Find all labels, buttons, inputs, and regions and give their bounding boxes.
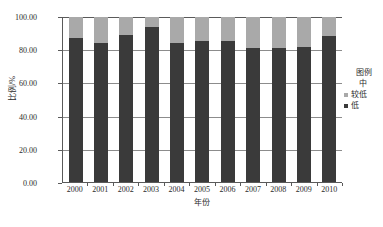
legend-title: 图例 [344, 66, 383, 77]
x-axis-tick-label: 2009 [291, 185, 316, 194]
y-axis-tick-label: 40.00 [0, 112, 37, 121]
bar-segment-lower-middle [272, 17, 286, 48]
bar-column[interactable] [221, 17, 235, 182]
x-axis-tick-label: 2002 [113, 185, 138, 194]
x-axis-tick-labels: 2000200120022003200420052006200720082009… [62, 185, 342, 194]
bar-segment-lower-middle [246, 17, 260, 48]
bar-segment-low [322, 36, 336, 182]
bar-segment-low [221, 41, 235, 182]
x-axis-tick-label: 2008 [266, 185, 291, 194]
bar-column[interactable] [246, 17, 260, 182]
y-axis-tick-label: 60.00 [0, 79, 37, 88]
x-axis-tick-label: 2004 [164, 185, 189, 194]
bar-segment-low [297, 47, 311, 182]
bar-column[interactable] [272, 17, 286, 182]
bar-segment-lower-middle [322, 17, 336, 36]
bar-segment-low [195, 41, 209, 182]
bar-segment-lower-middle [195, 17, 209, 41]
bar-segment-low [69, 38, 83, 182]
bar-column[interactable] [322, 17, 336, 182]
x-axis-tick-label: 2003 [138, 185, 163, 194]
bar-segment-lower-middle [69, 17, 83, 38]
bar-series-group [63, 17, 342, 182]
x-axis-tick-mark [342, 183, 343, 186]
y-axis-tick-label: 20.00 [0, 145, 37, 154]
bar-segment-low [94, 43, 108, 182]
legend-item-label: 中 [359, 80, 367, 88]
legend-item-label: 较低 [351, 91, 367, 99]
legend-swatch [344, 93, 348, 97]
legend-swatch [344, 104, 348, 108]
legend-item[interactable]: 中 [344, 80, 383, 88]
stacked-bar-chart: 比例/% 0.0020.0040.0060.0080.00100.00 2000… [0, 0, 383, 227]
bar-column[interactable] [119, 17, 133, 182]
legend-items: 中较低低 [344, 80, 383, 110]
bar-segment-lower-middle [119, 17, 133, 35]
x-axis-tick-label: 2006 [215, 185, 240, 194]
bar-segment-low [272, 48, 286, 182]
y-axis-title: 比例/% [6, 59, 17, 119]
chart-legend: 图例 中较低低 [344, 66, 383, 113]
bar-segment-lower-middle [297, 17, 311, 47]
x-axis-tick-label: 2010 [317, 185, 342, 194]
bar-segment-lower-middle [170, 17, 184, 43]
legend-item-label: 低 [351, 102, 359, 110]
bar-column[interactable] [170, 17, 184, 182]
bar-column[interactable] [69, 17, 83, 182]
bar-segment-lower-middle [145, 17, 159, 27]
bar-column[interactable] [145, 17, 159, 182]
plot-area [62, 17, 342, 183]
legend-item[interactable]: 较低 [344, 91, 383, 99]
bar-segment-low [119, 35, 133, 182]
x-axis-tick-label: 2007 [240, 185, 265, 194]
bar-segment-low [170, 43, 184, 182]
x-axis-tick-label: 2000 [62, 185, 87, 194]
x-axis-title: 年份 [62, 196, 342, 207]
bar-segment-low [246, 48, 260, 182]
bar-segment-lower-middle [94, 17, 108, 43]
bar-column[interactable] [94, 17, 108, 182]
bar-column[interactable] [297, 17, 311, 182]
x-axis-tick-label: 2001 [87, 185, 112, 194]
bar-segment-low [145, 27, 159, 182]
bar-segment-lower-middle [221, 17, 235, 41]
x-axis-tick-label: 2005 [189, 185, 214, 194]
legend-item[interactable]: 低 [344, 102, 383, 110]
y-axis-tick-label: 80.00 [0, 46, 37, 55]
y-axis-tick-label: 100.00 [0, 13, 37, 22]
y-axis-tick-label: 0.00 [0, 179, 37, 188]
bar-column[interactable] [195, 17, 209, 182]
